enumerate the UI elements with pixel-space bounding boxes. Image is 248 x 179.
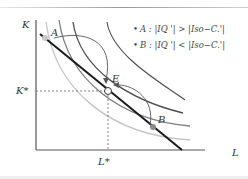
arrow-b-to-e [118,85,151,125]
point-b [150,124,156,130]
point-b-label: B [158,115,165,125]
point-a [42,35,48,41]
point-a-label: A [51,28,58,38]
bullet-icon: • [133,40,138,50]
l-star-label: L* [98,157,110,167]
point-e [105,88,112,95]
arrow-a-to-e [54,35,108,80]
bottom-band [0,176,248,179]
k-star-label: K* [16,86,28,96]
point-e-label: E [112,74,119,84]
x-axis-label: L [232,148,239,158]
legend-text-b: B : |IQ '| < |Iso−C.'| [140,40,225,50]
legend: •A : |IQ '| > |Iso−C.'| •B : |IQ '| < |I… [133,25,225,57]
y-axis-label: K [22,20,29,30]
arrow-a-head-icon [103,78,109,84]
legend-item-a: •A : |IQ '| > |Iso−C.'| [133,25,225,41]
legend-item-b: •B : |IQ '| < |Iso−C.'| [133,41,225,57]
bullet-icon: • [133,24,138,34]
legend-text-a: A : |IQ '| > |Iso−C.'| [140,24,225,34]
